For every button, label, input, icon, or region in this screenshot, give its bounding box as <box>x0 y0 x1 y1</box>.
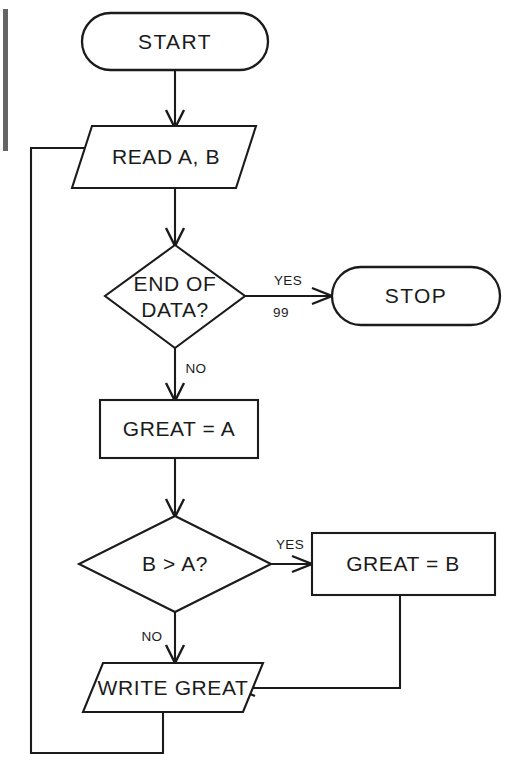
node-b-greater-than-a[interactable]: B > A? <box>79 516 271 612</box>
scan-edge-artifact <box>3 9 8 151</box>
great-a-label: GREAT = A <box>123 417 236 440</box>
end-of-data-label-line1: END OF <box>134 272 217 295</box>
node-stop[interactable]: STOP <box>332 267 500 325</box>
flowchart-diagram: STOP --> GREAT = A --> GREAT = B --> WRI… <box>0 0 511 781</box>
node-start[interactable]: START <box>82 13 268 70</box>
start-label: START <box>138 30 212 53</box>
read-label: READ A, B <box>112 145 220 168</box>
edge-label-enddata-yes: YES <box>274 273 302 288</box>
node-read[interactable]: READ A, B <box>72 126 256 188</box>
b-gt-a-label: B > A? <box>142 552 208 575</box>
connector-greatb-to-write <box>237 595 400 688</box>
edge-label-enddata-code: 99 <box>273 305 289 320</box>
node-write-great[interactable]: WRITE GREAT <box>83 663 263 712</box>
end-of-data-diamond-shape <box>105 245 245 348</box>
end-of-data-label-line2: DATA? <box>141 298 209 321</box>
node-great-equals-b[interactable]: GREAT = B <box>312 533 495 595</box>
node-end-of-data[interactable]: END OF DATA? <box>105 245 245 348</box>
edge-label-enddata-no: NO <box>185 361 206 376</box>
flowchart-canvas: STOP --> GREAT = A --> GREAT = B --> WRI… <box>0 0 511 781</box>
stop-label: STOP <box>385 284 447 307</box>
edge-label-bgta-no: NO <box>141 629 162 644</box>
node-great-equals-a[interactable]: GREAT = A <box>100 400 258 458</box>
great-b-label: GREAT = B <box>346 552 460 575</box>
edge-label-bgta-yes: YES <box>276 537 304 552</box>
write-great-label: WRITE GREAT <box>98 676 249 699</box>
